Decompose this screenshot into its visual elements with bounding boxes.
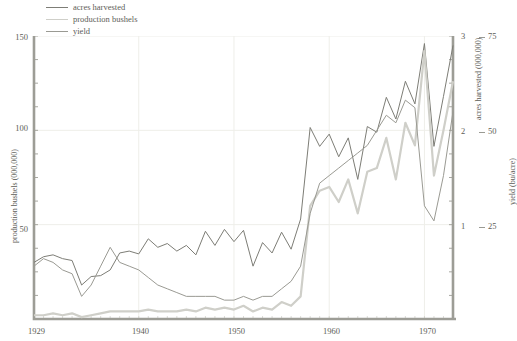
plot-svg xyxy=(31,36,456,322)
series-line-acres-harvested xyxy=(34,44,453,285)
chart-legend: acres harvested production bushels yield xyxy=(46,2,137,38)
y-right2-tick-25-value: 25 xyxy=(488,221,497,231)
y-right2-tick-75-value: 75 xyxy=(488,31,497,41)
legend-label-production-bushels: production bushels xyxy=(73,14,137,25)
data-series-group xyxy=(34,44,453,318)
x-tick-1970: 1970 xyxy=(419,326,436,336)
y-right1-tick-2: 2 xyxy=(461,126,465,136)
y-left-tick-100: 100 xyxy=(2,123,28,133)
tick-dash-icon-25 xyxy=(479,227,485,228)
axis-frame xyxy=(34,36,456,319)
y-axis-right1-title: acres harvested (000,000) xyxy=(474,38,483,120)
x-tick-1960: 1960 xyxy=(323,326,340,336)
legend-label-acres-harvested: acres harvested xyxy=(73,2,125,13)
legend-swatch-icon-yield xyxy=(46,31,68,32)
y-right2-tick-50-value: 50 xyxy=(488,126,497,136)
y-right2-tick-25: 25 xyxy=(479,221,497,231)
y-right1-tick-3: 3 xyxy=(461,31,465,41)
legend-item-acres-harvested: acres harvested xyxy=(46,2,137,13)
x-tick-1940: 1940 xyxy=(132,326,149,336)
y-right2-tick-50: 50 xyxy=(479,126,497,136)
plot-area xyxy=(31,36,456,322)
tick-dash-icon-75 xyxy=(479,37,485,38)
legend-swatch-icon-production-bushels xyxy=(46,19,68,20)
gridlines xyxy=(34,36,453,319)
x-tick-1950: 1950 xyxy=(228,326,245,336)
y-left-tick-150: 150 xyxy=(2,32,28,42)
y-right2-tick-75: 75 xyxy=(479,31,497,41)
axis-tick-marks xyxy=(34,36,453,319)
legend-item-production-bushels: production bushels xyxy=(46,14,137,25)
series-line-production-bushels xyxy=(34,51,453,317)
y-right1-tick-1: 1 xyxy=(461,221,465,231)
y-axis-right2-title: yield (bu/acre) xyxy=(508,158,517,205)
legend-swatch-icon-acres-harvested xyxy=(46,7,68,8)
y-axis-left-title: production bushels (000,000) xyxy=(10,149,19,243)
x-tick-1929: 1929 xyxy=(28,326,45,336)
tick-dash-icon-50 xyxy=(479,132,485,133)
